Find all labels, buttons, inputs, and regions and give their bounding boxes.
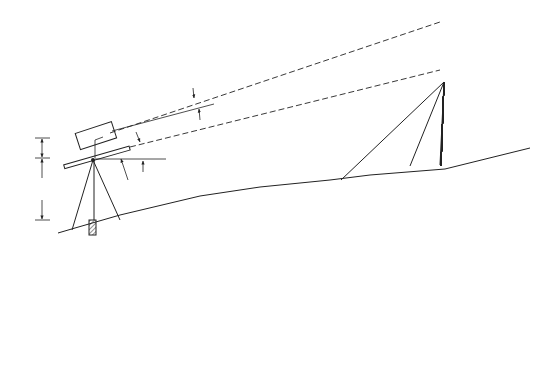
theodolite-tripod: [72, 158, 120, 230]
hi-dimension: [35, 138, 50, 220]
panel-a: [35, 22, 530, 235]
ground-line: [58, 148, 530, 233]
target-sight-line: [130, 70, 440, 147]
s-measured-line: [110, 22, 440, 133]
edm-reference-line: [112, 104, 214, 131]
station-k-stake: [89, 220, 96, 235]
edm-unit: [75, 122, 116, 150]
theodolite-leader: [121, 159, 128, 180]
theodolite-telescope: [64, 146, 130, 169]
station-l-tripod: [341, 82, 444, 180]
surveying-diagram: [0, 0, 544, 375]
